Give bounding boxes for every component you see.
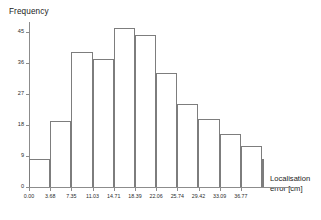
histogram-bar — [156, 73, 177, 187]
histogram-bar — [177, 104, 198, 188]
y-axis-tick-label: 45 — [18, 28, 24, 35]
x-axis-tick-label: 18.39 — [128, 193, 141, 200]
x-axis-tick — [114, 188, 115, 191]
x-axis-tick-label: 3.68 — [45, 193, 55, 200]
y-axis-tick: 9 — [26, 156, 30, 157]
y-axis-tick: 27 — [26, 94, 30, 95]
x-axis-tick — [71, 188, 72, 191]
y-axis-tick-label: 27 — [18, 90, 24, 97]
histogram-bar — [241, 146, 262, 187]
histogram-bar — [198, 119, 219, 187]
y-axis-tick: 18 — [26, 125, 30, 126]
y-axis-tick-label: 0 — [21, 183, 24, 190]
y-axis-tick: 45 — [26, 32, 30, 33]
x-axis-tick-label: 11.03 — [86, 193, 99, 200]
y-axis-tick-label: 9 — [21, 152, 24, 159]
x-axis-title: Localisation error [cm] — [270, 174, 320, 193]
histogram-bar — [50, 121, 71, 187]
y-axis-tick-label: 36 — [18, 59, 24, 66]
x-axis-tick — [29, 188, 30, 191]
x-axis-tick — [177, 188, 178, 191]
y-axis-title: Frequency — [9, 7, 49, 17]
x-axis-tick-label: 33.09 — [213, 193, 226, 200]
histogram-bar — [93, 59, 114, 187]
x-axis-tick — [135, 188, 136, 191]
y-axis-tick: 36 — [26, 63, 30, 64]
x-axis-tick-label: 29.42 — [192, 193, 205, 200]
histogram-bar — [114, 28, 135, 187]
x-axis-tick-label: 0.00 — [24, 193, 34, 200]
x-axis-tick-label: 36.77 — [234, 193, 247, 200]
histogram-bar — [135, 35, 156, 187]
histogram-bar — [71, 52, 92, 187]
x-axis-tick-label: 14.71 — [107, 193, 120, 200]
histogram-bar — [220, 134, 241, 187]
x-axis-tick — [156, 188, 157, 191]
histogram-bar — [262, 159, 264, 188]
x-axis-line — [29, 187, 291, 188]
x-axis-tick-label: 22.06 — [149, 193, 162, 200]
x-axis-tick — [50, 188, 51, 191]
x-axis-tick-label: 7.35 — [66, 193, 76, 200]
histogram-bar — [29, 159, 50, 188]
x-axis-title-line-1: Localisation — [270, 174, 320, 184]
x-axis-tick-label: 25.74 — [171, 193, 184, 200]
x-axis-title-line-2: error [cm] — [270, 184, 320, 194]
x-axis-tick — [199, 188, 200, 191]
x-axis-tick — [241, 188, 242, 191]
y-axis-tick-label: 18 — [18, 121, 24, 128]
plot-area: 0918273645 0.003.687.3511.0314.7118.3922… — [29, 22, 262, 188]
x-axis-tick — [220, 188, 221, 191]
x-axis-tick — [93, 188, 94, 191]
histogram-figure: Frequency Localisation error [cm] 091827… — [0, 0, 321, 220]
